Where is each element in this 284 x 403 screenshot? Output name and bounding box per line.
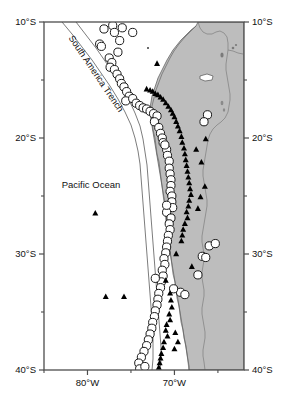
- x-axis-label: 70°W: [163, 377, 186, 388]
- y-axis-label-right: 10°S: [252, 16, 273, 27]
- lake-mark-1: [220, 52, 223, 57]
- earthquake-marker: [114, 48, 122, 56]
- earthquake-marker: [194, 271, 202, 279]
- earthquake-marker: [200, 118, 208, 126]
- earthquake-marker: [100, 25, 108, 33]
- y-axis-label-left: 40°S: [15, 364, 36, 375]
- earthquake-marker: [110, 28, 118, 36]
- y-axis-label-right: 30°S: [252, 248, 273, 259]
- earthquake-marker: [161, 141, 169, 149]
- lake-mark-2: [232, 47, 235, 50]
- lake-mark-4: [221, 101, 224, 105]
- earthquake-marker: [116, 36, 124, 44]
- earthquake-marker: [118, 24, 126, 32]
- x-axis-label: 80°W: [76, 377, 99, 388]
- y-axis-label-left: 20°S: [15, 132, 36, 143]
- pacific-ocean-label: Pacific Ocean: [62, 179, 121, 190]
- earthquake-marker: [211, 239, 219, 247]
- map-canvas: 10°S10°S20°S20°S30°S30°S40°S40°S80°W70°W…: [0, 0, 284, 403]
- earthquake-marker: [97, 42, 105, 50]
- y-axis-label-right: 40°S: [252, 364, 273, 375]
- lake-mark-5: [223, 108, 225, 112]
- earthquake-marker: [163, 201, 171, 209]
- earthquake-marker: [151, 274, 159, 282]
- lake-mark-6: [147, 47, 149, 49]
- y-axis-label-right: 20°S: [252, 132, 273, 143]
- lake-mark-3: [235, 44, 237, 46]
- earthquake-marker: [202, 253, 210, 261]
- earthquake-marker: [129, 28, 137, 36]
- earthquake-marker: [181, 291, 189, 299]
- y-axis-label-left: 30°S: [15, 248, 36, 259]
- map-figure: 10°S10°S20°S20°S30°S30°S40°S40°S80°W70°W…: [0, 0, 284, 403]
- y-axis-label-left: 10°S: [15, 16, 36, 27]
